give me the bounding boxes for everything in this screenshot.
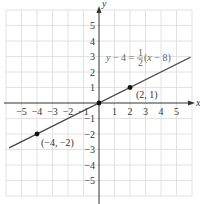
x-tick-label: −3 [47,106,58,117]
coordinate-plane: x y −5−4−3−2−11234554321−1−2−3−4−5 (2, 1… [0,0,200,204]
x-tick-label: −4 [32,106,43,117]
y-axis-label: y [101,0,107,9]
x-axis-label: x [195,97,200,108]
x-tick-label: 3 [143,106,148,117]
y-tick-label: −2 [84,129,95,140]
y-tick-label: −5 [84,175,95,186]
x-tick-label: 2 [128,106,133,117]
y-tick-label: 1 [90,82,95,93]
y-tick-label: 3 [90,51,95,62]
y-tick-label: 4 [90,36,95,47]
x-tick-label: −5 [16,106,27,117]
equation-left: y − 4 = [105,52,135,63]
data-point [128,85,133,90]
x-tick-label: 5 [174,106,179,117]
y-tick-label: −4 [84,160,95,171]
y-tick-label: −1 [84,113,95,124]
data-point [97,101,102,106]
point-label-neg4-neg2: (−4, −2) [41,137,74,149]
data-point [35,132,40,137]
point-label-2-1: (2, 1) [136,89,158,101]
equation-right: (x − 8) [144,52,171,64]
x-tick-label: −2 [63,106,74,117]
equation-fraction-den: 2 [138,57,143,68]
y-tick-label: 5 [90,20,95,31]
y-tick-label: −3 [84,144,95,155]
x-tick-label: 1 [112,106,117,117]
y-tick-label: 2 [90,67,95,78]
x-tick-label: 4 [159,106,164,117]
